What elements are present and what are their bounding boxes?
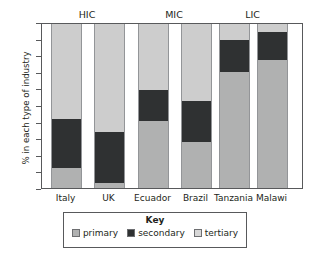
group-label-hic: HIC — [57, 9, 117, 20]
bar-segment-primary[interactable] — [257, 60, 288, 188]
y-axis-title: % in each type of industry — [21, 38, 31, 178]
stacked-bar[interactable] — [51, 24, 82, 188]
bar-segment-secondary[interactable] — [257, 32, 288, 60]
x-axis-tick-label-malawi: Malawi — [242, 193, 302, 203]
legend-item-tertiary[interactable]: tertiary — [194, 228, 238, 238]
legend-title: Key — [64, 215, 246, 225]
bar-segment-primary[interactable] — [181, 142, 212, 188]
bar-segment-primary[interactable] — [51, 168, 82, 188]
stacked-bar-chart-figure: % in each type of industry HICMICLIC 010… — [0, 0, 313, 254]
bar-segment-tertiary[interactable] — [138, 24, 169, 90]
legend-swatch-secondary — [127, 229, 135, 237]
legend-label-secondary: secondary — [138, 228, 185, 238]
bar-segment-tertiary[interactable] — [257, 24, 288, 32]
bar-segment-secondary[interactable] — [51, 119, 82, 168]
stacked-bar[interactable] — [138, 24, 169, 188]
bar-segment-tertiary[interactable] — [51, 24, 82, 119]
legend-swatch-primary — [72, 229, 80, 237]
group-label-lic: LIC — [223, 9, 283, 20]
bar-segment-secondary[interactable] — [181, 101, 212, 142]
bar-segment-primary[interactable] — [94, 183, 125, 188]
plot-area — [41, 23, 303, 189]
stacked-bar[interactable] — [219, 24, 250, 188]
legend-item-secondary[interactable]: secondary — [127, 228, 185, 238]
bar-segment-primary[interactable] — [219, 72, 250, 188]
bar-segment-primary[interactable] — [138, 121, 169, 188]
bar-segment-secondary[interactable] — [138, 90, 169, 121]
bar-segment-tertiary[interactable] — [181, 24, 212, 101]
legend-label-tertiary: tertiary — [205, 228, 238, 238]
stacked-bar[interactable] — [181, 24, 212, 188]
stacked-bar[interactable] — [94, 24, 125, 188]
legend-items: primarysecondarytertiary — [64, 228, 246, 238]
legend-item-primary[interactable]: primary — [72, 228, 118, 238]
legend-key-box: Key primarysecondarytertiary — [63, 212, 247, 248]
legend-label-primary: primary — [83, 228, 118, 238]
bar-segment-secondary[interactable] — [94, 132, 125, 183]
group-label-mic: MIC — [144, 9, 204, 20]
legend-swatch-tertiary — [194, 229, 202, 237]
bar-segment-tertiary[interactable] — [94, 24, 125, 132]
stacked-bar[interactable] — [257, 24, 288, 188]
bar-segment-secondary[interactable] — [219, 40, 250, 71]
bar-segment-tertiary[interactable] — [219, 24, 250, 40]
y-axis-tick-mark — [36, 189, 41, 190]
